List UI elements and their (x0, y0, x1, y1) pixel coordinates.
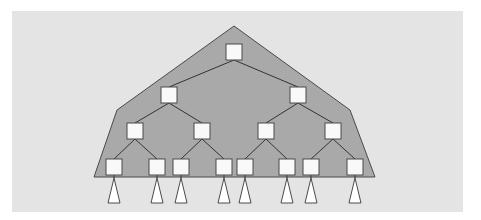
tree-node-depth-3 (279, 159, 295, 175)
tree-node-depth-2 (127, 123, 143, 139)
subtree-triangle (218, 178, 230, 203)
tree-node-depth-0 (226, 44, 242, 60)
tree-node-depth-2 (258, 123, 274, 139)
subtree-triangles (108, 175, 361, 203)
tree-node-depth-3 (303, 159, 319, 175)
subtree-triangle (281, 178, 293, 203)
tree-node-depth-2 (194, 123, 210, 139)
tree-node-depth-3 (173, 159, 189, 175)
subtree-triangle (349, 178, 361, 203)
subtree-triangle (175, 178, 187, 203)
subtree-triangle (305, 178, 317, 203)
tree-node-depth-3 (106, 159, 122, 175)
subtree-triangle (239, 178, 251, 203)
binary-tree-diagram (0, 0, 481, 220)
tree-node-depth-2 (325, 123, 341, 139)
tree-node-depth-3 (149, 159, 165, 175)
tree-node-depth-3 (347, 159, 363, 175)
tree-node-depth-1 (290, 87, 306, 103)
subtree-triangle (151, 178, 163, 203)
tree-node-depth-3 (216, 159, 232, 175)
tree-node-depth-1 (161, 87, 177, 103)
subtree-triangle (108, 178, 120, 203)
tree-node-depth-3 (237, 159, 253, 175)
